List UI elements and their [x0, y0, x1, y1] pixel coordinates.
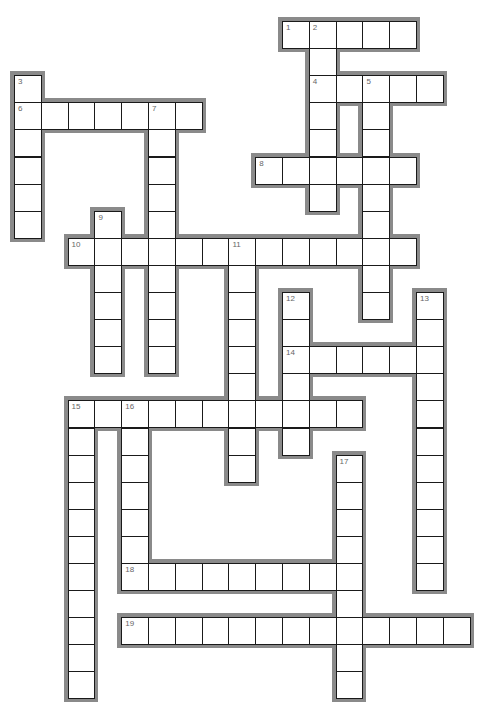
crossword-cell[interactable] [362, 238, 390, 266]
crossword-cell[interactable] [443, 617, 471, 645]
crossword-cell[interactable] [362, 265, 390, 293]
crossword-cell[interactable] [68, 509, 96, 537]
crossword-cell[interactable] [228, 617, 256, 645]
crossword-cell[interactable]: 19 [121, 617, 149, 645]
crossword-cell[interactable] [416, 346, 444, 374]
crossword-cell[interactable] [41, 102, 69, 130]
crossword-cell[interactable] [282, 238, 310, 266]
crossword-cell[interactable] [309, 346, 337, 374]
crossword-cell[interactable] [228, 428, 256, 456]
crossword-cell[interactable] [309, 563, 337, 591]
crossword-cell[interactable] [175, 238, 203, 266]
crossword-cell[interactable] [228, 346, 256, 374]
crossword-cell[interactable] [202, 238, 230, 266]
crossword-cell[interactable] [228, 265, 256, 293]
crossword-cell[interactable] [362, 129, 390, 157]
crossword-cell[interactable] [68, 617, 96, 645]
crossword-cell[interactable]: 10 [68, 238, 96, 266]
crossword-cell[interactable] [68, 455, 96, 483]
crossword-cell[interactable] [416, 75, 444, 103]
crossword-cell[interactable] [68, 563, 96, 591]
crossword-cell[interactable] [148, 319, 176, 347]
crossword-cell[interactable] [148, 238, 176, 266]
crossword-cell[interactable]: 15 [68, 400, 96, 428]
crossword-cell[interactable] [255, 617, 283, 645]
crossword-cell[interactable] [362, 21, 390, 49]
crossword-cell[interactable] [121, 482, 149, 510]
crossword-cell[interactable] [148, 617, 176, 645]
crossword-cell[interactable] [94, 319, 122, 347]
crossword-cell[interactable] [362, 157, 390, 185]
crossword-cell[interactable] [228, 455, 256, 483]
crossword-cell[interactable] [202, 400, 230, 428]
crossword-cell[interactable] [121, 455, 149, 483]
crossword-cell[interactable] [94, 400, 122, 428]
crossword-cell[interactable] [309, 617, 337, 645]
crossword-cell[interactable] [202, 617, 230, 645]
crossword-cell[interactable]: 7 [148, 102, 176, 130]
crossword-cell[interactable] [175, 400, 203, 428]
crossword-cell[interactable] [94, 346, 122, 374]
crossword-cell[interactable] [389, 346, 417, 374]
crossword-cell[interactable] [336, 671, 364, 699]
crossword-cell[interactable] [175, 617, 203, 645]
crossword-cell[interactable]: 12 [282, 292, 310, 320]
crossword-cell[interactable] [416, 482, 444, 510]
crossword-cell[interactable] [121, 536, 149, 564]
crossword-cell[interactable] [282, 400, 310, 428]
crossword-cell[interactable] [416, 400, 444, 428]
crossword-cell[interactable] [175, 102, 203, 130]
crossword-cell[interactable] [389, 238, 417, 266]
crossword-cell[interactable] [121, 102, 149, 130]
crossword-cell[interactable] [362, 292, 390, 320]
crossword-cell[interactable]: 8 [255, 157, 283, 185]
crossword-cell[interactable] [336, 21, 364, 49]
crossword-cell[interactable] [148, 157, 176, 185]
crossword-cell[interactable] [228, 319, 256, 347]
crossword-cell[interactable] [336, 400, 364, 428]
crossword-cell[interactable]: 3 [14, 75, 42, 103]
crossword-cell[interactable] [148, 184, 176, 212]
crossword-cell[interactable] [336, 617, 364, 645]
crossword-cell[interactable] [94, 292, 122, 320]
crossword-cell[interactable] [309, 184, 337, 212]
crossword-cell[interactable] [228, 373, 256, 401]
crossword-cell[interactable]: 13 [416, 292, 444, 320]
crossword-cell[interactable] [148, 563, 176, 591]
crossword-cell[interactable]: 11 [228, 238, 256, 266]
crossword-cell[interactable] [148, 211, 176, 239]
crossword-cell[interactable]: 2 [309, 21, 337, 49]
crossword-cell[interactable] [416, 455, 444, 483]
crossword-cell[interactable] [336, 157, 364, 185]
crossword-cell[interactable] [416, 373, 444, 401]
crossword-cell[interactable] [228, 563, 256, 591]
crossword-cell[interactable] [282, 319, 310, 347]
crossword-cell[interactable] [14, 184, 42, 212]
crossword-cell[interactable] [94, 238, 122, 266]
crossword-cell[interactable] [309, 238, 337, 266]
crossword-cell[interactable]: 17 [336, 455, 364, 483]
crossword-cell[interactable]: 5 [362, 75, 390, 103]
crossword-cell[interactable] [389, 21, 417, 49]
crossword-cell[interactable] [282, 563, 310, 591]
crossword-cell[interactable] [255, 400, 283, 428]
crossword-cell[interactable] [228, 400, 256, 428]
crossword-cell[interactable] [309, 48, 337, 76]
crossword-cell[interactable] [121, 428, 149, 456]
crossword-cell[interactable]: 4 [309, 75, 337, 103]
crossword-cell[interactable] [94, 265, 122, 293]
crossword-cell[interactable] [416, 509, 444, 537]
crossword-cell[interactable] [336, 482, 364, 510]
crossword-cell[interactable]: 9 [94, 211, 122, 239]
crossword-cell[interactable] [68, 644, 96, 672]
crossword-cell[interactable] [309, 400, 337, 428]
crossword-cell[interactable] [14, 129, 42, 157]
crossword-cell[interactable] [336, 238, 364, 266]
crossword-cell[interactable] [336, 509, 364, 537]
crossword-cell[interactable] [416, 536, 444, 564]
crossword-cell[interactable]: 6 [14, 102, 42, 130]
crossword-cell[interactable] [416, 617, 444, 645]
crossword-cell[interactable] [309, 157, 337, 185]
crossword-cell[interactable] [309, 102, 337, 130]
crossword-cell[interactable] [202, 563, 230, 591]
